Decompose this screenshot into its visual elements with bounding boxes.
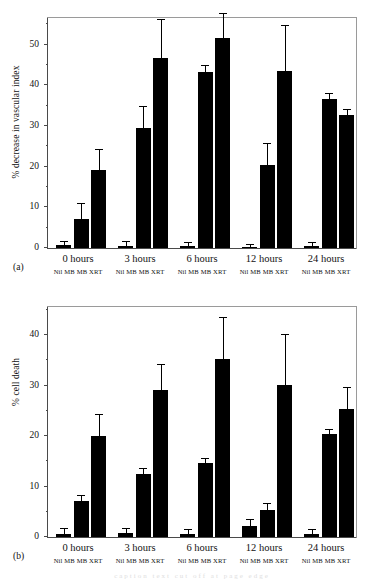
error-bar [64, 242, 65, 246]
bar [180, 534, 195, 537]
error-bar [223, 14, 224, 38]
bar [322, 99, 337, 248]
error-bar [188, 243, 189, 246]
y-tick-minor-25 [46, 410, 49, 411]
bar [242, 526, 257, 537]
y-tick-label-0: 0 [34, 242, 39, 252]
bar [198, 463, 213, 537]
error-bar-cap [122, 241, 130, 242]
x-group-label: 24 hours [281, 253, 371, 264]
x-sub-label: Nil MB MB XRT [281, 268, 371, 275]
y-tick-minor-15 [46, 460, 49, 461]
panel-tag-a: (a) [13, 262, 24, 272]
y-tick-label-20: 20 [30, 161, 40, 171]
panel-tag-b: (b) [13, 551, 24, 561]
error-bar [223, 318, 224, 360]
error-bar [161, 20, 162, 58]
bar [215, 38, 230, 248]
error-bar [64, 529, 65, 534]
x-group-label: 24 hours [281, 542, 371, 553]
error-bar-cap [246, 519, 254, 520]
error-bar-cap [157, 364, 165, 365]
bar [339, 409, 354, 537]
bar [91, 170, 106, 248]
error-bar-cap [219, 317, 227, 318]
bar [153, 58, 168, 248]
error-bar-cap [281, 334, 289, 335]
y-tick-label-40: 40 [30, 329, 40, 339]
y-tick-minor-35 [46, 105, 49, 106]
error-bar [81, 204, 82, 219]
error-bar-cap [95, 414, 103, 415]
bar [304, 246, 319, 248]
bar [118, 246, 133, 248]
bar [91, 436, 106, 537]
bar [260, 510, 275, 537]
error-bar [99, 415, 100, 435]
error-bar [143, 107, 144, 128]
y-tick-10: 10 [44, 486, 48, 487]
error-bar-cap [184, 242, 192, 243]
y-tick-50: 50 [44, 44, 48, 45]
y-tick-minor-15 [46, 186, 49, 187]
panel-a: % decrease in vascular index 01020304050… [0, 0, 384, 290]
bar [180, 246, 195, 248]
y-tick-minor-45 [46, 309, 49, 310]
error-bar [329, 94, 330, 99]
y-tick-0: 0 [44, 247, 48, 248]
x-sub-label: Nil MB MB XRT [281, 557, 371, 564]
error-bar [285, 335, 286, 384]
error-bar [347, 388, 348, 409]
x-axis-spine-b [47, 537, 356, 538]
figure-container: % decrease in vascular index 01020304050… [0, 0, 384, 586]
y-tick-minor-5 [46, 227, 49, 228]
bar [56, 245, 71, 248]
error-bar [205, 66, 206, 71]
bar [74, 219, 89, 248]
y-tick-label-40: 40 [30, 79, 40, 89]
error-bar [312, 530, 313, 535]
error-bar-cap [219, 13, 227, 14]
error-bar-cap [343, 387, 351, 388]
error-bar [285, 26, 286, 72]
plot-area-b: 010203040 [47, 306, 357, 538]
error-bar-cap [308, 529, 316, 530]
error-bar-cap [139, 106, 147, 107]
y-axis-label-a: % decrease in vascular index [11, 12, 21, 232]
plot-area-a: 01020304050 [47, 17, 357, 249]
y-tick-label-30: 30 [30, 120, 40, 130]
error-bar-cap [77, 203, 85, 204]
y-axis-spine-b [47, 307, 48, 537]
y-tick-minor-55 [46, 23, 49, 24]
error-bar-cap [263, 503, 271, 504]
bar [118, 533, 133, 537]
bar [136, 128, 151, 248]
y-axis-label-b: % cell death [11, 272, 21, 492]
error-bar [250, 520, 251, 526]
error-bar-cap [77, 495, 85, 496]
error-bar-cap [343, 109, 351, 110]
bar [242, 247, 257, 248]
y-tick-minor-45 [46, 64, 49, 65]
bar [277, 385, 292, 537]
bar [339, 115, 354, 248]
y-tick-0: 0 [44, 536, 48, 537]
bar [322, 434, 337, 537]
bar [260, 165, 275, 248]
bar [74, 501, 89, 537]
error-bar [329, 430, 330, 434]
error-bar [126, 242, 127, 246]
y-tick-label-10: 10 [30, 201, 40, 211]
y-tick-minor-25 [46, 145, 49, 146]
y-tick-label-10: 10 [30, 481, 40, 491]
bar [215, 359, 230, 537]
error-bar [205, 459, 206, 464]
error-bar [312, 243, 313, 246]
y-tick-minor-35 [46, 359, 49, 360]
error-bar [81, 496, 82, 501]
panel-b: % cell death 010203040 (b) 0 hoursNil MB… [0, 292, 384, 586]
error-bar [250, 245, 251, 247]
y-tick-minor-5 [46, 511, 49, 512]
error-bar [267, 144, 268, 165]
error-bar [143, 469, 144, 474]
